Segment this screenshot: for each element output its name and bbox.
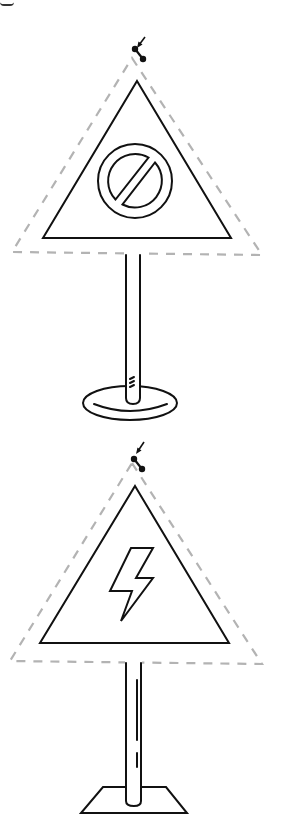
rotate-handle[interactable] (132, 37, 146, 62)
warning-triangle (43, 81, 231, 238)
prohibition-sign-group[interactable] (12, 37, 262, 420)
arrow-icon (137, 37, 145, 48)
rotate-handle[interactable] (131, 442, 145, 472)
high-voltage-sign-group[interactable] (10, 442, 262, 813)
arrow-icon (136, 442, 144, 454)
drawing-canvas[interactable] (0, 0, 281, 819)
sign-pole (81, 660, 187, 813)
no-entry-icon (98, 144, 172, 218)
warning-triangle (40, 486, 229, 643)
sign-pole (83, 250, 177, 420)
lightning-bolt-icon (110, 548, 153, 621)
